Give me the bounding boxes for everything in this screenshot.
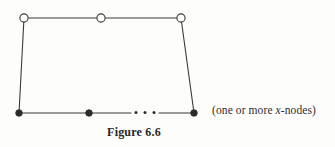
top-left-node bbox=[20, 14, 28, 22]
ellipsis-dot-2 bbox=[144, 111, 147, 114]
figure-page: (one or more x-nodes) Figure 6.6 bbox=[0, 0, 335, 147]
ellipsis-dot-3 bbox=[153, 111, 156, 114]
top-middle-node bbox=[97, 14, 105, 22]
edge-left bbox=[19, 18, 24, 113]
quadrilateral-edges bbox=[19, 18, 194, 113]
x-nodes-annotation: (one or more x-nodes) bbox=[212, 103, 316, 117]
bottom-middle-node bbox=[86, 110, 93, 117]
ellipsis-dot-1 bbox=[135, 111, 138, 114]
annotation-suffix-text: -nodes) bbox=[281, 104, 316, 116]
bottom-left-node bbox=[16, 110, 23, 117]
ellipsis-dots bbox=[135, 111, 156, 114]
figure-caption: Figure 6.6 bbox=[0, 125, 268, 140]
annotation-prefix-text: (one or more bbox=[212, 104, 276, 116]
bottom-right-node bbox=[191, 110, 198, 117]
top-right-node bbox=[177, 14, 185, 22]
edge-right bbox=[181, 18, 194, 113]
